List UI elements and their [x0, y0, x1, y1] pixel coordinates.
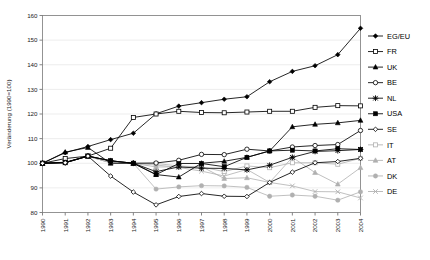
y-tick-label: 100	[27, 159, 38, 166]
data-point-open-diamond	[245, 194, 250, 199]
line-chart: 8090100110120130140150160 19901991199219…	[0, 0, 430, 260]
data-point-open-diamond	[222, 194, 227, 199]
legend-label: AT	[387, 156, 396, 165]
x-tick-label: 1999	[243, 218, 250, 232]
y-tick-label: 80	[31, 209, 38, 216]
data-point-open-square	[290, 109, 294, 113]
legend-label: DK	[387, 172, 397, 181]
data-point-star	[289, 154, 295, 160]
data-point-filled-circle	[199, 183, 203, 187]
legend-label: SE	[387, 125, 397, 134]
x-tick-label: 1993	[107, 218, 114, 232]
data-point-open-diamond	[373, 127, 378, 132]
x-tick-label: 2004	[357, 218, 364, 232]
legend-label: EG/EU	[387, 32, 410, 41]
x-axis-ticks: 1990199119921993199419951996199719981999…	[39, 213, 364, 233]
chart-container: 8090100110120130140150160 19901991199219…	[0, 0, 430, 260]
data-point-filled-diamond	[199, 100, 204, 105]
x-tick-label: 1991	[62, 218, 69, 232]
data-point-filled-square	[336, 147, 340, 151]
data-point-filled-circle	[245, 185, 249, 189]
y-axis-title: Veränderung (1990=100)	[5, 80, 12, 149]
legend-item-it[interactable]: IT	[368, 141, 394, 150]
data-point-star	[244, 167, 250, 173]
legend-item-fr[interactable]: FR	[368, 47, 397, 56]
data-point-open-diamond	[176, 194, 181, 199]
series-line	[43, 28, 361, 163]
data-point-open-square	[373, 143, 377, 147]
data-point-open-square	[245, 110, 249, 114]
data-point-open-square	[177, 109, 181, 113]
data-point-open-square	[131, 115, 135, 119]
x-tick-label: 1994	[130, 218, 137, 232]
x-tick-label: 1998	[221, 218, 228, 232]
data-point-filled-square	[373, 112, 377, 116]
legend-item-nl[interactable]: NL	[368, 94, 396, 103]
data-point-filled-circle	[177, 185, 181, 189]
legend-item-eg-eu[interactable]: EG/EU	[368, 32, 410, 41]
legend-item-usa[interactable]: USA	[368, 109, 402, 118]
data-point-filled-square	[222, 165, 226, 169]
data-point-open-square	[373, 50, 377, 54]
data-point-filled-circle	[358, 190, 362, 194]
data-point-open-square	[222, 111, 226, 115]
data-point-filled-circle	[336, 198, 340, 202]
data-point-filled-square	[358, 147, 362, 151]
data-point-open-diamond	[290, 170, 295, 175]
legend-label: UK	[387, 63, 397, 72]
x-tick-label: 1990	[39, 218, 46, 232]
data-point-star	[267, 162, 273, 168]
data-point-star	[373, 95, 379, 101]
y-tick-label: 90	[31, 184, 38, 191]
data-point-open-circle	[358, 128, 362, 132]
legend-label: FR	[387, 47, 397, 56]
data-point-filled-triangle	[358, 165, 363, 169]
legend-item-de[interactable]: DE	[368, 187, 397, 196]
legend-item-be[interactable]: BE	[368, 78, 397, 87]
data-point-filled-square	[268, 149, 272, 153]
legend-label: NL	[387, 94, 396, 103]
y-axis-ticks: 8090100110120130140150160	[27, 12, 42, 216]
data-point-open-square	[268, 109, 272, 113]
x-tick-label: 1996	[175, 218, 182, 232]
y-tick-label: 120	[27, 110, 38, 117]
data-point-open-square	[154, 112, 158, 116]
data-point-filled-diamond	[108, 137, 113, 142]
data-point-open-circle	[336, 142, 340, 146]
legend-item-uk[interactable]: UK	[368, 63, 397, 72]
data-point-filled-circle	[222, 184, 226, 188]
data-point-filled-circle	[373, 174, 377, 178]
x-tick-label: 2002	[311, 218, 318, 232]
data-point-open-square	[109, 146, 113, 150]
data-point-filled-circle	[267, 194, 271, 198]
x-tick-label: 2001	[289, 218, 296, 232]
data-point-open-circle	[199, 152, 203, 156]
data-point-filled-triangle	[335, 182, 340, 186]
data-point-filled-diamond	[176, 104, 181, 109]
data-point-open-square	[313, 105, 317, 109]
data-point-open-square	[336, 104, 340, 108]
data-point-open-circle	[313, 143, 317, 147]
data-point-filled-square	[109, 159, 113, 163]
data-point-open-square	[358, 104, 362, 108]
data-point-filled-square	[199, 161, 203, 165]
legend-label: DE	[387, 187, 397, 196]
data-point-filled-square	[245, 155, 249, 159]
data-point-open-diamond	[154, 203, 159, 208]
data-point-filled-diamond	[373, 34, 378, 39]
legend-item-at[interactable]: AT	[368, 156, 396, 165]
data-point-filled-square	[313, 149, 317, 153]
legend-label: BE	[387, 78, 397, 87]
y-tick-label: 110	[28, 135, 38, 142]
legend-label: IT	[387, 141, 394, 150]
legend-item-dk[interactable]: DK	[368, 172, 397, 181]
data-point-filled-square	[290, 148, 294, 152]
legend-item-se[interactable]: SE	[368, 125, 397, 134]
data-point-filled-square	[154, 173, 158, 177]
data-point-filled-circle	[290, 193, 294, 197]
data-point-filled-diamond	[222, 97, 227, 102]
data-point-filled-diamond	[313, 63, 318, 68]
data-point-filled-triangle	[313, 170, 318, 174]
chart-legend: EG/EUFRUKBENLUSASEITATDKDE	[368, 32, 410, 197]
data-point-open-circle	[222, 152, 226, 156]
